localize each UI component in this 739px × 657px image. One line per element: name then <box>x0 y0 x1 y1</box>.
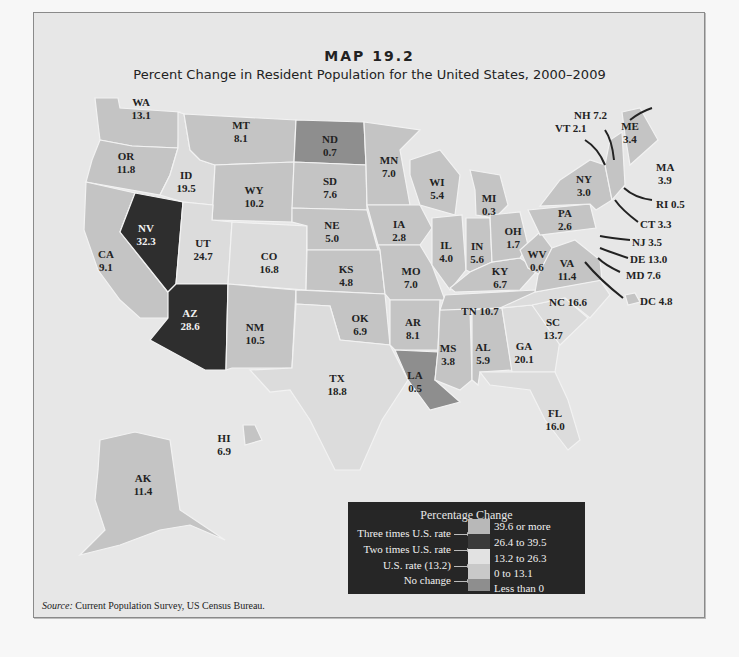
callout-MD: MD 7.6 <box>626 269 661 281</box>
legend-swatch-13-2-to-26-3 <box>468 549 490 564</box>
arrow-icon <box>454 566 468 567</box>
state-label-MT: MT8.1 <box>232 119 250 145</box>
source-note: Source: Current Population Survey, US Ce… <box>42 600 265 611</box>
state-label-ME: ME3.4 <box>621 120 639 146</box>
state-label-SC: SC13.7 <box>543 316 562 342</box>
legend-bin-5: Less than 0 <box>494 582 544 594</box>
state-label-LA: LA0.5 <box>407 369 422 395</box>
legend-swatch-less-than-0 <box>468 579 490 591</box>
state-DC-inset <box>625 293 640 305</box>
legend-ref-two-times: Two times U.S. rate <box>363 543 451 555</box>
state-label-OH: OH1.7 <box>504 225 521 251</box>
state-FL <box>480 372 580 450</box>
state-label-WY: WY10.2 <box>244 184 263 210</box>
legend-swatch-26-4-to-39-5 <box>468 534 490 549</box>
state-label-UT: UT24.7 <box>193 237 212 263</box>
state-label-OR: OR11.8 <box>117 150 136 176</box>
legend-bin-4: 0 to 13.1 <box>494 567 533 579</box>
state-label-KY: KY6.7 <box>492 265 509 291</box>
callout-DE: DE 13.0 <box>630 253 667 265</box>
state-label-PA: PA2.6 <box>558 207 572 233</box>
state-label-WI: WI5.4 <box>429 176 444 202</box>
state-label-CO: CO16.8 <box>259 250 278 276</box>
state-label-AZ: AZ28.6 <box>180 307 199 333</box>
state-label-IN: IN5.6 <box>470 240 484 266</box>
legend-ref-us-rate: U.S. rate (13.2) <box>383 559 451 571</box>
state-label-IL: IL4.0 <box>439 239 453 265</box>
legend-bin-1: 39.6 or more <box>494 520 551 532</box>
state-label-NM: NM10.5 <box>245 321 264 347</box>
callout-NH: NH 7.2 <box>574 109 607 121</box>
callout-VT: VT 2.1 <box>555 122 587 134</box>
state-label-MN: MN7.0 <box>380 154 398 180</box>
state-label-AR: AR8.1 <box>405 316 421 342</box>
state-HI <box>243 425 262 445</box>
callout-DC: DC 4.8 <box>640 295 672 307</box>
legend-swatch-39-6-plus <box>468 519 490 534</box>
callout-MA-value: 3.9 <box>658 174 672 186</box>
state-label-MS: MS3.8 <box>440 342 457 368</box>
state-label-HI: HI6.9 <box>217 432 231 458</box>
state-label-KS: KS4.8 <box>339 263 354 289</box>
state-label-IA: IA2.8 <box>392 218 406 244</box>
state-label-GA: GA20.1 <box>514 340 533 366</box>
state-label-CA: CA9.1 <box>98 248 114 274</box>
state-label-TX: TX18.8 <box>327 372 346 398</box>
state-label-MO: MO7.0 <box>402 265 421 291</box>
legend-bin-3: 13.2 to 26.3 <box>494 552 547 564</box>
state-label-NC: NC 16.6 <box>549 296 587 309</box>
legend-swatch-0-to-13-1 <box>468 564 490 579</box>
state-label-NE: NE5.0 <box>324 219 339 245</box>
state-label-NY: NY3.0 <box>576 173 592 199</box>
state-label-FL: FL16.0 <box>545 407 564 433</box>
state-label-MI: MI0.3 <box>482 192 497 218</box>
state-label-WV: WV0.6 <box>528 248 547 274</box>
legend-ref-no-change: No change <box>404 574 451 586</box>
arrow-icon <box>454 534 468 535</box>
callout-NJ: NJ 3.5 <box>632 236 662 248</box>
legend: Percentage Change Three times U.S. rate … <box>348 502 585 594</box>
state-label-AL: AL5.9 <box>475 341 490 367</box>
legend-ref-three-times: Three times U.S. rate <box>357 527 451 539</box>
state-label-TN: TN 10.7 <box>461 305 498 318</box>
state-label-ID: ID19.5 <box>176 169 195 195</box>
state-label-VA: VA11.4 <box>558 257 577 283</box>
callout-CT: CT 3.3 <box>640 218 672 230</box>
callout-MA-label: MA <box>656 161 674 173</box>
arrow-icon <box>454 550 468 551</box>
legend-bin-2: 26.4 to 39.5 <box>494 536 547 548</box>
state-label-WA: WA13.1 <box>131 96 150 122</box>
state-label-SD: SD7.6 <box>323 175 337 201</box>
state-label-OK: OK6.9 <box>351 312 368 338</box>
arrow-icon <box>454 581 468 582</box>
callout-RI: RI 0.5 <box>656 198 685 210</box>
state-label-ND: ND0.7 <box>322 133 338 159</box>
state-label-AK: AK11.4 <box>134 472 153 498</box>
state-label-NV: NV32.3 <box>136 222 155 248</box>
